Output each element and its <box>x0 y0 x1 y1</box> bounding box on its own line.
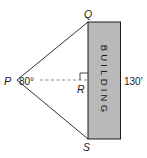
point-label-p: P <box>4 75 12 87</box>
line-pq <box>17 22 88 80</box>
point-label-r: R <box>77 83 85 95</box>
right-angle-marker <box>80 73 88 80</box>
point-label-q: Q <box>84 8 92 20</box>
angle-label: 80° <box>19 76 34 87</box>
building-label: BUILDING <box>99 45 110 115</box>
geometry-diagram: P Q R S 80° 130' BUILDING <box>0 0 147 158</box>
height-label: 130' <box>124 76 143 87</box>
point-label-s: S <box>83 141 90 153</box>
